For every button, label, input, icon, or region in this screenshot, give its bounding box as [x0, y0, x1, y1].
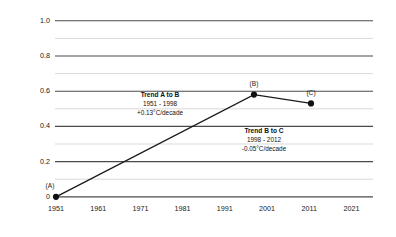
temperature-increase-chart: Temperature Increase (°C) 1.0 0.8 0.6 0.… [0, 0, 396, 237]
annotation-b-to-c-period: 1998 - 2012 [222, 136, 306, 145]
x-tick-1971: 1971 [132, 205, 148, 212]
data-point-c [308, 100, 314, 106]
annotation-b-to-c-title: Trend B to C [222, 127, 306, 136]
y-tick-0-4: 0.4 [24, 123, 50, 130]
y-tick-0-8: 0.8 [24, 52, 50, 59]
annotation-b-to-c-rate: -0.05°C/decade [222, 145, 306, 154]
annotation-trend-b-to-c: Trend B to C 1998 - 2012 -0.05°C/decade [222, 127, 306, 153]
plot-area [0, 0, 396, 237]
data-point-label-b: (B) [250, 81, 259, 88]
annotation-trend-a-to-b: Trend A to B 1951 - 1998 +0.13°C/decade [118, 91, 202, 117]
y-tick-1-0: 1.0 [24, 17, 50, 24]
y-tick-0-2: 0.2 [24, 158, 50, 165]
x-tick-1991: 1991 [217, 205, 233, 212]
data-point-b [251, 92, 257, 98]
annotation-a-to-b-rate: +0.13°C/decade [118, 109, 202, 118]
y-tick-0-6: 0.6 [24, 88, 50, 95]
y-tick-0: 0 [24, 193, 50, 200]
data-point-a [53, 194, 59, 200]
major-gridlines [55, 21, 373, 162]
annotation-a-to-b-title: Trend A to B [118, 91, 202, 100]
x-tick-2001: 2001 [259, 205, 275, 212]
data-point-label-c: (C) [306, 90, 315, 97]
minor-gridlines [55, 38, 373, 179]
data-point-label-a: (A) [46, 183, 55, 190]
x-tick-1951: 1951 [48, 205, 64, 212]
x-tick-2011: 2011 [301, 205, 316, 212]
annotation-a-to-b-period: 1951 - 1998 [118, 100, 202, 109]
x-tick-1981: 1981 [175, 205, 191, 212]
x-tick-2021: 2021 [343, 205, 359, 212]
x-tick-1961: 1961 [90, 205, 106, 212]
y-axis-ticks: 1.0 0.8 0.6 0.4 0.2 0 [24, 0, 50, 237]
